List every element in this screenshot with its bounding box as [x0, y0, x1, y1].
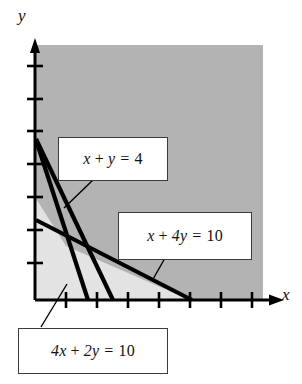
eq2-rhs: 10 — [206, 227, 222, 245]
eq2-term-a: x — [147, 227, 154, 245]
eq1-rhs: 4 — [134, 150, 142, 168]
equation-label-x-y-4: x + y = 4 — [58, 137, 168, 181]
eq2-op1: + — [158, 227, 167, 245]
eq2-equals: = — [192, 227, 201, 245]
eq3-rhs: 10 — [119, 342, 135, 360]
equation-label-x-4y-10: x + 4y = 10 — [118, 212, 252, 260]
graph-figure — [0, 0, 302, 384]
eq2-term-b: 4y — [172, 227, 188, 245]
eq3-term-a: 4x — [51, 342, 67, 360]
x-axis-label: x — [282, 285, 290, 305]
eq3-op1: + — [71, 342, 80, 360]
eq1-op1: + — [95, 150, 104, 168]
eq3-term-b: 2y — [84, 342, 100, 360]
equation-label-4x-2y-10: 4x + 2y = 10 — [18, 328, 168, 374]
eq1-term-a: x — [83, 150, 90, 168]
eq1-term-b: y — [108, 150, 115, 168]
eq3-equals: = — [104, 342, 113, 360]
eq1-equals: = — [120, 150, 129, 168]
y-axis-label: y — [18, 6, 26, 26]
